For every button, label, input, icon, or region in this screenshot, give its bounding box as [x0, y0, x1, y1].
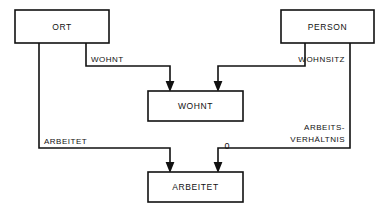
relationship-wohnt[interactable]: WOHNT [148, 91, 243, 121]
entity-ort[interactable]: ORT [15, 10, 109, 43]
er-diagram: ORT PERSON WOHNT ARBEITET WOHNT WOHNSITZ… [0, 0, 389, 219]
relationship-arbeitet-label: ARBEITET [172, 182, 218, 192]
entity-person-label: PERSON [308, 22, 348, 32]
entity-ort-label: ORT [52, 22, 72, 32]
diagram-canvas: ORT PERSON WOHNT ARBEITET WOHNT WOHNSITZ… [0, 0, 389, 219]
relationship-wohnt-label: WOHNT [178, 101, 213, 111]
edge-label-arbeitsverhaeltnis-line2: VERHÄLTNIS [290, 135, 345, 144]
connector-person-wohnt [214, 43, 305, 92]
edge-label-wohnt: WOHNT [91, 55, 124, 64]
edge-label-wohnsitz: WOHNSITZ [298, 55, 345, 64]
relationship-arbeitet[interactable]: ARBEITET [148, 172, 243, 202]
cardinality-zero-label: 0 [224, 141, 229, 151]
connector-line-person-wohnt [218, 43, 305, 84]
edge-label-arbeitsverhaeltnis-line1: ARBEITS- [304, 123, 345, 132]
edge-label-arbeitet: ARBEITET [44, 137, 87, 146]
connector-ort-wohnt [86, 43, 174, 92]
entity-person[interactable]: PERSON [281, 10, 374, 43]
